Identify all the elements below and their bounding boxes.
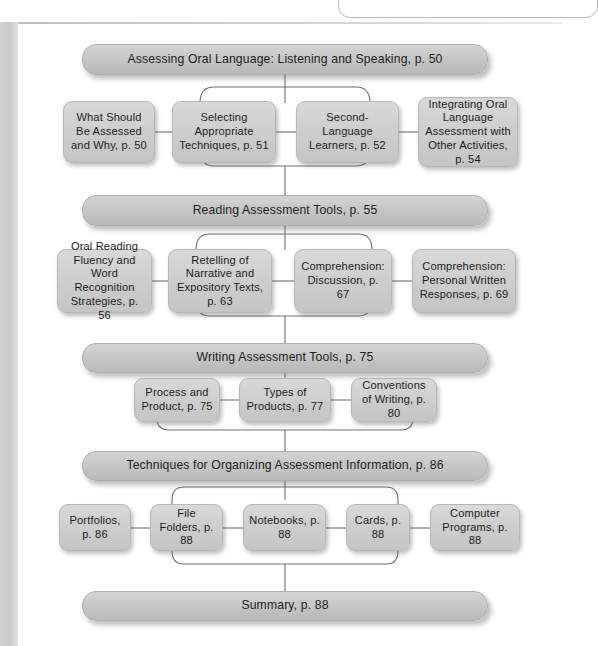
node-label: Portfolios, p. 86 <box>65 514 125 542</box>
section-header-label: Techniques for Organizing Assessment Inf… <box>88 458 482 473</box>
node-label: What Should Be Assessed and Why, p. 50 <box>69 111 149 152</box>
node-cards[interactable]: Cards, p. 88 <box>346 504 410 551</box>
node-label: Comprehension: Personal Written Response… <box>418 260 510 301</box>
node-label: Notebooks, p. 88 <box>249 514 320 542</box>
node-second-language-learners[interactable]: Second-Language Learners, p. 52 <box>296 101 399 163</box>
node-retelling-narrative-expository[interactable]: Retelling of Narrative and Expository Te… <box>168 249 272 313</box>
node-label: Cards, p. 88 <box>352 514 404 542</box>
node-process-and-product[interactable]: Process and Product, p. 75 <box>134 378 220 422</box>
node-computer-programs[interactable]: Computer Programs, p. 88 <box>430 504 520 551</box>
section-header-label: Writing Assessment Tools, p. 75 <box>88 350 482 365</box>
node-file-folders[interactable]: File Folders, p. 88 <box>150 504 223 551</box>
node-comprehension-discussion[interactable]: Comprehension: Discussion, p. 67 <box>294 249 392 313</box>
section-header-organizing[interactable]: Techniques for Organizing Assessment Inf… <box>82 451 488 481</box>
section-header-reading[interactable]: Reading Assessment Tools, p. 55 <box>82 195 488 226</box>
node-integrating-oral-language[interactable]: Integrating Oral Language Assessment wit… <box>418 97 518 167</box>
section-header-label: Assessing Oral Language: Listening and S… <box>88 52 482 67</box>
node-label: Types of Products, p. 77 <box>245 386 325 414</box>
section-header-oral-language[interactable]: Assessing Oral Language: Listening and S… <box>82 44 488 75</box>
node-label: Comprehension: Discussion, p. 67 <box>300 260 386 301</box>
section-header-writing[interactable]: Writing Assessment Tools, p. 75 <box>82 343 488 373</box>
node-label: Retelling of Narrative and Expository Te… <box>174 254 266 309</box>
node-label: Computer Programs, p. 88 <box>436 507 514 548</box>
node-portfolios[interactable]: Portfolios, p. 86 <box>59 504 131 551</box>
section-header-summary[interactable]: Summary, p. 88 <box>82 591 488 621</box>
node-notebooks[interactable]: Notebooks, p. 88 <box>243 504 326 551</box>
page-left-margin-strip <box>0 22 18 646</box>
node-label: Integrating Oral Language Assessment wit… <box>424 98 512 167</box>
node-label: Selecting Appropriate Techniques, p. 51 <box>178 111 270 152</box>
section-header-label: Reading Assessment Tools, p. 55 <box>88 203 482 218</box>
node-what-should-be-assessed[interactable]: What Should Be Assessed and Why, p. 50 <box>63 101 155 163</box>
node-label: Process and Product, p. 75 <box>140 386 214 414</box>
node-comprehension-personal-written[interactable]: Comprehension: Personal Written Response… <box>412 249 516 313</box>
page-top-rounded-frame <box>338 0 598 18</box>
node-oral-reading-fluency[interactable]: Oral Reading Fluency and Word Recognitio… <box>57 249 152 313</box>
node-conventions-of-writing[interactable]: Conventions of Writing, p. 80 <box>351 378 437 422</box>
node-label: Conventions of Writing, p. 80 <box>357 379 431 420</box>
node-types-of-products[interactable]: Types of Products, p. 77 <box>239 378 331 422</box>
node-label: File Folders, p. 88 <box>156 507 217 548</box>
section-header-label: Summary, p. 88 <box>88 598 482 613</box>
node-label: Second-Language Learners, p. 52 <box>302 111 393 152</box>
node-label: Oral Reading Fluency and Word Recognitio… <box>63 240 146 323</box>
node-selecting-appropriate-techniques[interactable]: Selecting Appropriate Techniques, p. 51 <box>172 101 276 163</box>
